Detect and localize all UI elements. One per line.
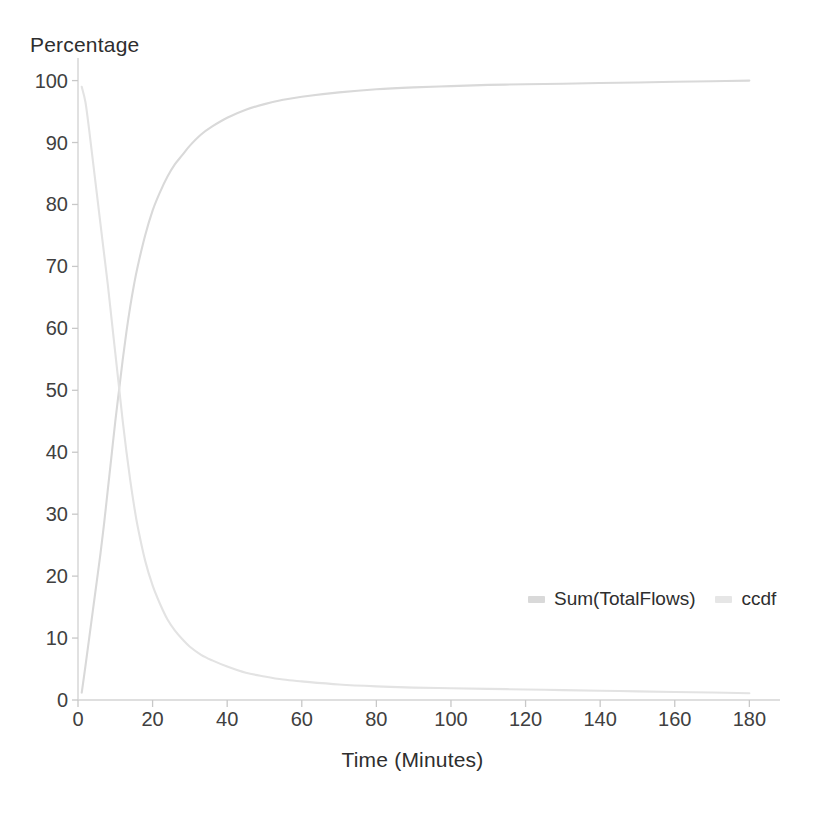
y-tick-label: 60 [16, 317, 68, 340]
y-tick-label: 80 [16, 193, 68, 216]
legend-label: Sum(TotalFlows) [554, 588, 695, 610]
x-tick-label: 0 [48, 708, 108, 731]
chart-legend: Sum(TotalFlows)ccdf [528, 588, 776, 610]
axis-ticks [72, 81, 749, 707]
x-tick-label: 60 [272, 708, 332, 731]
y-tick-label: 10 [16, 627, 68, 650]
y-tick-label: 70 [16, 255, 68, 278]
legend-item[interactable]: Sum(TotalFlows) [528, 588, 695, 610]
x-tick-label: 140 [570, 708, 630, 731]
x-tick-label: 160 [645, 708, 705, 731]
legend-label: ccdf [741, 588, 776, 610]
legend-swatch-icon [715, 596, 732, 603]
y-tick-label: 100 [16, 69, 68, 92]
y-tick-label: 50 [16, 379, 68, 402]
plot-canvas [0, 0, 825, 817]
y-tick-label: 20 [16, 565, 68, 588]
x-tick-label: 120 [496, 708, 556, 731]
x-tick-label: 40 [197, 708, 257, 731]
legend-swatch-icon [528, 596, 545, 603]
x-tick-label: 80 [346, 708, 406, 731]
legend-item[interactable]: ccdf [715, 588, 776, 610]
x-tick-label: 20 [123, 708, 183, 731]
y-tick-label: 30 [16, 503, 68, 526]
y-tick-label: 40 [16, 441, 68, 464]
x-tick-label: 100 [421, 708, 481, 731]
y-tick-label: 90 [16, 131, 68, 154]
x-tick-label: 180 [719, 708, 779, 731]
chart-container: Percentage Time (Minutes) 01020304050607… [0, 0, 825, 817]
